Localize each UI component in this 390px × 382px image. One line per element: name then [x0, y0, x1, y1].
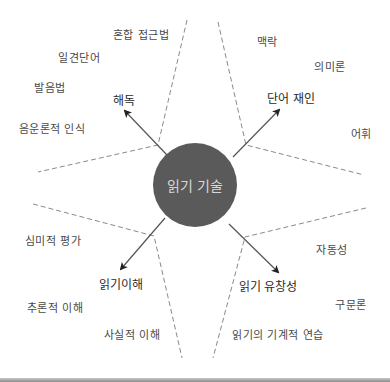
label-word-recognition: 단어 재인 — [267, 89, 315, 106]
label-fluency: 읽기 유창성 — [239, 277, 298, 294]
item-sight-words: 일견단어 — [58, 49, 100, 65]
item-phonological-awareness: 음운론적 인식 — [19, 120, 86, 136]
item-context: 맥락 — [257, 33, 278, 49]
item-reading-practice: 읽기의 기계적 연습 — [232, 326, 324, 342]
arrow-comprehension — [121, 218, 165, 269]
item-aesthetic-evaluation: 심미적 평가 — [25, 232, 82, 248]
label-decoding: 해독 — [113, 91, 135, 108]
center-label: 읽기 기술 — [167, 175, 223, 195]
item-literal-comprehension: 사실적 이해 — [104, 326, 161, 342]
item-phonics: 발음법 — [34, 79, 66, 95]
item-automaticity: 자동성 — [316, 241, 348, 257]
item-semantics: 의미론 — [314, 58, 346, 74]
label-comprehension: 읽기이해 — [99, 275, 143, 292]
item-blended-approach: 혼합 접근법 — [113, 26, 170, 42]
bottom-border — [0, 378, 390, 382]
item-inferential-comprehension: 추론적 이해 — [27, 299, 84, 315]
item-syntax: 구문론 — [335, 296, 367, 312]
item-vocabulary: 어휘 — [351, 125, 372, 141]
